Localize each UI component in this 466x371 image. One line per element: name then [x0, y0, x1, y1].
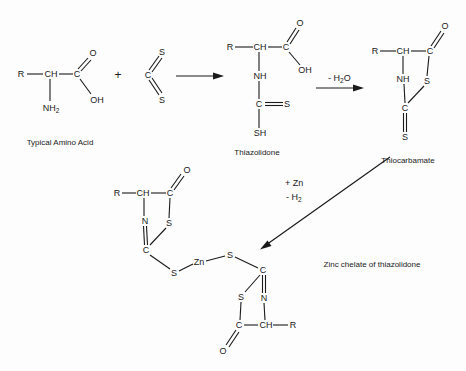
arrow-amino-to-thiazolidone: [176, 73, 224, 80]
atom-c: C: [427, 46, 434, 56]
condition-plus-zinc: + Zn: [285, 178, 303, 188]
atom-r: R: [227, 42, 234, 52]
thiocarbamate-structure: R CH C O S NH C S: [372, 21, 449, 142]
atom-c2: C: [256, 99, 263, 109]
atom-ch-right: CH: [260, 320, 273, 330]
plus-operator: +: [114, 68, 121, 82]
atom-s: S: [284, 99, 290, 109]
atom-ch-left: CH: [137, 188, 150, 198]
atom-r-left: R: [114, 188, 121, 198]
atom-c-left: C: [167, 188, 174, 198]
atom-c2: C: [402, 103, 409, 113]
atom-n-left: N: [142, 216, 149, 226]
atom-nh: NH: [397, 74, 410, 84]
carbon-disulfide-structure: S C S: [145, 47, 165, 105]
atom-s-ring-right: S: [238, 292, 244, 302]
caption-typical-amino-acid: Typical Amino Acid: [27, 138, 94, 147]
reaction-diagram-svg: R CH C O OH NH2 Typical Amino Acid + S C…: [0, 0, 466, 371]
arrow-thiocarbamate-to-chelate: [260, 157, 390, 250]
atom-s-top: S: [159, 47, 165, 57]
atom-c-right: C: [236, 320, 243, 330]
atom-s-link-right: S: [227, 250, 233, 260]
arrow-thiazolidone-to-thiocarbamate: [316, 85, 364, 92]
atom-s-ring-left: S: [166, 218, 172, 228]
atom-o-right: O: [219, 346, 226, 356]
atom-zn: Zn: [194, 257, 205, 267]
atom-sh: SH: [254, 128, 267, 138]
atom-o: O: [89, 48, 96, 58]
atom-o-left: O: [183, 165, 190, 175]
atom-c: C: [145, 70, 152, 80]
atom-n-right: N: [261, 293, 268, 303]
atom-s-exo: S: [402, 132, 408, 142]
atom-oh: OH: [90, 95, 104, 105]
atom-o: O: [441, 21, 448, 31]
reaction-scheme: R CH C O OH NH2 Typical Amino Acid + S C…: [0, 0, 466, 371]
thiazolidone-structure: R CH C O OH NH C S SH: [227, 18, 312, 138]
atom-c2-right: C: [260, 265, 267, 275]
atom-o: O: [296, 18, 303, 28]
zinc-chelate-structure: R CH C O N S C S Zn S C S N C CH R O: [114, 165, 297, 356]
caption-zinc-chelate: Zinc chelate of thiazolidone: [324, 260, 422, 269]
condition-minus-hydrogen: - H2: [286, 192, 302, 203]
atom-c: C: [283, 42, 290, 52]
atom-c: C: [74, 69, 81, 79]
atom-s-link-left: S: [171, 268, 177, 278]
atom-r: R: [372, 46, 379, 56]
amino-acid-structure: R CH C O OH NH2: [18, 48, 104, 114]
caption-thiazolidone: Thiazolidone: [234, 148, 280, 157]
atom-r: R: [18, 69, 25, 79]
atom-ch: CH: [45, 69, 58, 79]
atom-c2-left: C: [143, 245, 150, 255]
atom-oh: OH: [298, 65, 312, 75]
atom-ch: CH: [254, 42, 267, 52]
atom-r-right: R: [290, 320, 297, 330]
atom-nh2: NH2: [43, 103, 60, 114]
condition-minus-water: - H2O: [328, 73, 351, 84]
atom-nh: NH: [254, 71, 267, 81]
atom-s-ring: S: [424, 76, 430, 86]
atom-ch: CH: [397, 46, 410, 56]
atom-s-bottom: S: [159, 95, 165, 105]
